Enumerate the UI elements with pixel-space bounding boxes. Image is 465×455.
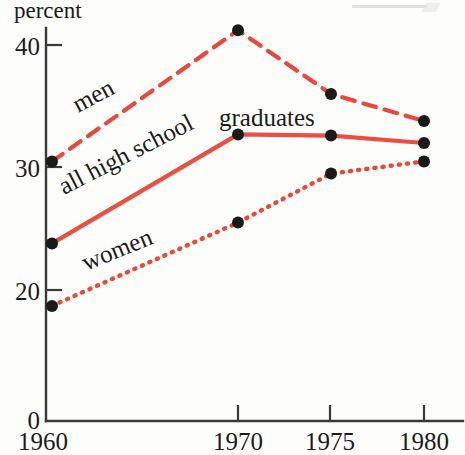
series-annotation-all-high-school: all high school bbox=[54, 109, 197, 200]
data-point bbox=[232, 24, 244, 36]
chart-figure: 40 30 20 0 percent 1960 1970 1975 1980 m… bbox=[0, 0, 465, 455]
data-point bbox=[325, 88, 337, 100]
data-point bbox=[418, 155, 430, 167]
x-tick-label-1975: 1975 bbox=[305, 428, 355, 455]
data-point bbox=[418, 115, 430, 127]
x-tick-label-1960: 1960 bbox=[18, 428, 68, 455]
data-point bbox=[418, 137, 430, 149]
series-line-women bbox=[52, 161, 424, 306]
series-annotation-graduates: graduates bbox=[219, 104, 315, 131]
data-point bbox=[46, 237, 58, 249]
data-markers-all-high-school-graduates bbox=[46, 128, 430, 249]
data-point bbox=[232, 217, 244, 229]
data-point bbox=[325, 130, 337, 142]
data-point bbox=[46, 155, 58, 167]
series-annotation-men: men bbox=[68, 73, 119, 117]
y-axis-title: percent bbox=[14, 0, 82, 23]
x-tick-label-1980: 1980 bbox=[399, 428, 449, 455]
x-tick-label-1970: 1970 bbox=[213, 428, 263, 455]
y-tick-label-40: 40 bbox=[15, 33, 40, 60]
series-annotation-women: women bbox=[78, 223, 157, 276]
y-tick-label-30: 30 bbox=[15, 155, 40, 182]
data-point bbox=[46, 300, 58, 312]
data-point bbox=[325, 168, 337, 180]
y-tick-label-20: 20 bbox=[15, 278, 40, 305]
line-chart: 40 30 20 0 percent 1960 1970 1975 1980 m… bbox=[0, 0, 465, 455]
